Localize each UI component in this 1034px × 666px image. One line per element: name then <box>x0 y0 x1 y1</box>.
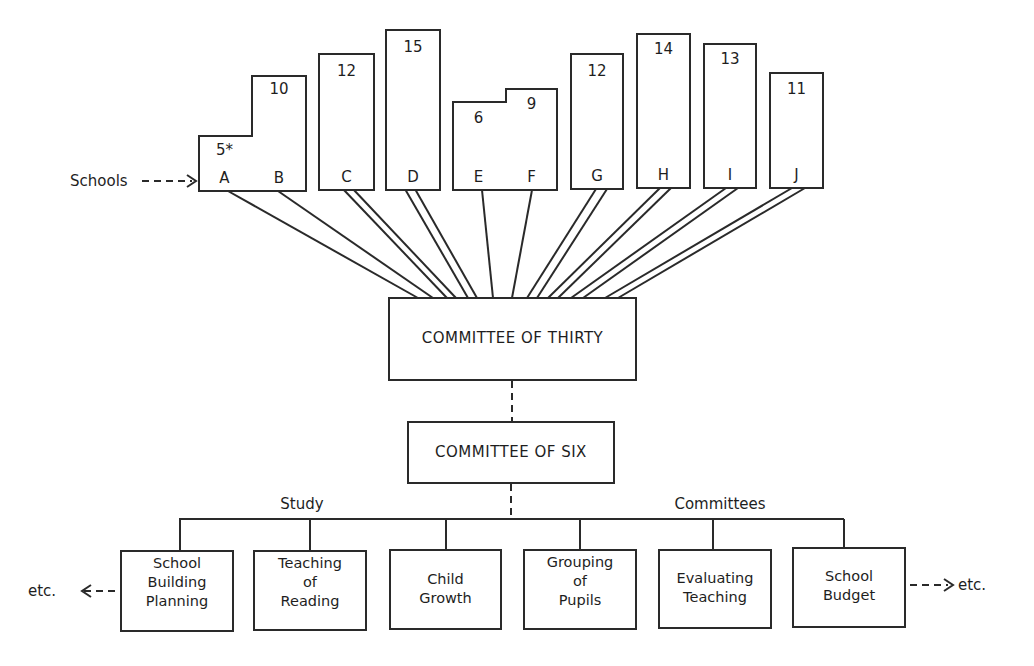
school-g-label: G <box>570 167 624 185</box>
school-j-label: J <box>769 166 824 184</box>
committee-of-six-label: COMMITTEE OF SIX <box>407 443 615 461</box>
school-c-count: 12 <box>318 62 375 80</box>
committee-label-line: Child <box>391 570 500 589</box>
committee-label-line: Planning <box>122 592 232 611</box>
committee-of-thirty-label: COMMITTEE OF THIRTY <box>388 329 637 347</box>
org-chart: Schools 5* A 10 B 12 C 15 D 6 E 9 F 12 G… <box>0 0 1034 666</box>
school-i-label: I <box>703 166 757 184</box>
school-a-label: A <box>198 169 251 187</box>
school-b-label: B <box>251 169 307 187</box>
committee-label-line: Teaching <box>660 588 770 607</box>
school-g-count: 12 <box>570 62 624 80</box>
school-i-count: 13 <box>703 50 757 68</box>
school-d-label: D <box>385 168 441 186</box>
committee-label-line: Growth <box>391 589 500 608</box>
committee-label-line: School <box>794 567 904 586</box>
etc-right-label: etc. <box>958 576 986 594</box>
committees-label: Committees <box>660 495 780 513</box>
committee-label-line: of <box>255 573 365 592</box>
committee-label-line: Grouping <box>525 553 635 572</box>
school-c-label: C <box>318 168 375 186</box>
committee-box-evaluating-teaching: Evaluating Teaching <box>658 549 772 629</box>
school-b-count: 10 <box>251 80 307 98</box>
committee-label-line: Budget <box>794 586 904 605</box>
school-j-count: 11 <box>769 80 824 98</box>
committee-label-line: Pupils <box>525 591 635 610</box>
school-h-count: 14 <box>636 40 691 58</box>
school-h-label: H <box>636 166 691 184</box>
school-e-count: 6 <box>452 109 505 127</box>
school-e-label: E <box>452 168 505 186</box>
schools-label: Schools <box>70 172 128 190</box>
committee-label-line: Evaluating <box>660 569 770 588</box>
school-f-label: F <box>505 168 558 186</box>
committee-label-line: Reading <box>255 592 365 611</box>
school-a-count: 5* <box>198 141 251 159</box>
school-d-count: 15 <box>385 38 441 56</box>
committee-label-line: of <box>525 572 635 591</box>
study-label: Study <box>262 495 342 513</box>
committee-label-line: School <box>122 554 232 573</box>
committee-box-school-building-planning: School Building Planning <box>120 550 234 632</box>
committee-box-child-growth: Child Growth <box>389 549 502 630</box>
committee-box-teaching-of-reading: Teaching of Reading <box>253 550 367 631</box>
school-f-count: 9 <box>505 95 558 113</box>
committee-label-line: Teaching <box>255 554 365 573</box>
committee-label-line: Building <box>122 573 232 592</box>
etc-left-label: etc. <box>28 582 56 600</box>
committee-box-school-budget: School Budget <box>792 547 906 628</box>
etc-right-arrowhead-icon <box>944 579 953 591</box>
committee-box-grouping-of-pupils: Grouping of Pupils <box>523 549 637 630</box>
